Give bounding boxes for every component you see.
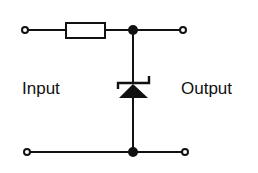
input-label: Input (22, 80, 60, 97)
resistor-icon (66, 23, 105, 38)
output-label: Output (181, 80, 232, 97)
junction-dot-icon (128, 25, 138, 35)
open-terminal-icon (180, 27, 186, 33)
open-terminal-icon (182, 149, 188, 155)
junction-dot-icon (128, 147, 138, 157)
open-terminal-icon (24, 149, 30, 155)
open-terminal-icon (22, 27, 28, 33)
zener-diode-icon (119, 84, 148, 98)
